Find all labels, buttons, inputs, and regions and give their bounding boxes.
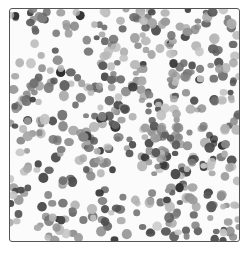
- cell-nucleus: [152, 148, 161, 157]
- cell-nucleus: [97, 169, 105, 177]
- cell-nucleus: [226, 18, 236, 29]
- cell-nucleus: [111, 236, 119, 241]
- cell-nucleus: [206, 201, 216, 212]
- cell-nucleus: [210, 75, 219, 83]
- cell-nucleus: [78, 80, 85, 88]
- cell-nucleus: [87, 204, 97, 214]
- cell-nucleus: [220, 204, 226, 210]
- cell-nucleus: [142, 134, 149, 140]
- cell-nucleus: [79, 216, 87, 224]
- cell-nucleus: [184, 166, 190, 172]
- cell-nucleus: [117, 75, 126, 83]
- cell-nucleus: [58, 199, 68, 208]
- cell-nucleus: [62, 20, 70, 27]
- cell-nucleus: [38, 173, 48, 183]
- micrograph-frame: [9, 8, 240, 242]
- cell-nucleus: [204, 192, 212, 199]
- cell-nucleus: [175, 183, 183, 192]
- cell-nucleus: [185, 9, 191, 13]
- cell-nucleus: [15, 58, 24, 67]
- cell-nucleus: [130, 60, 140, 69]
- cell-nucleus: [160, 9, 169, 17]
- cell-nucleus: [83, 113, 89, 118]
- cell-nucleus: [26, 58, 36, 68]
- cell-nucleus: [90, 215, 96, 221]
- cell-nucleus: [183, 141, 193, 150]
- cell-nucleus: [33, 167, 40, 173]
- cell-nucleus: [95, 189, 103, 196]
- cell-nucleus: [59, 90, 69, 101]
- cell-nucleus: [38, 52, 45, 59]
- cell-nucleus: [175, 229, 182, 235]
- cell-nucleus: [160, 18, 170, 26]
- cell-nucleus: [17, 187, 25, 194]
- cell-nucleus: [52, 47, 59, 53]
- cell-nucleus: [44, 235, 51, 241]
- cell-nucleus: [188, 183, 198, 191]
- cell-nucleus: [48, 200, 56, 207]
- cell-nucleus: [227, 90, 233, 95]
- cell-nucleus: [133, 209, 140, 216]
- cell-nucleus: [57, 65, 64, 72]
- cell-nucleus: [59, 80, 69, 91]
- cell-nucleus: [117, 117, 125, 124]
- cell-nucleus: [70, 21, 79, 31]
- cell-nucleus: [35, 99, 42, 105]
- cell-nucleus: [26, 19, 35, 27]
- cell-nucleus: [126, 150, 134, 158]
- cell-nucleus: [45, 167, 54, 175]
- cell-nucleus: [16, 149, 25, 157]
- cell-nucleus: [34, 225, 42, 231]
- cell-nucleus: [24, 117, 31, 125]
- cell-nucleus: [138, 77, 147, 86]
- cell-nucleus: [86, 172, 95, 181]
- cell-nucleus: [177, 200, 183, 205]
- cell-nucleus: [149, 117, 156, 124]
- cell-nucleus: [117, 217, 126, 224]
- cell-nucleus: [35, 160, 42, 168]
- cell-nucleus: [47, 67, 54, 74]
- cell-nucleus: [182, 89, 190, 97]
- cell-nucleus: [120, 104, 130, 114]
- cell-nucleus: [100, 52, 110, 61]
- cell-nucleus: [83, 36, 92, 45]
- cell-nucleus: [122, 229, 132, 239]
- cell-nucleus: [109, 166, 116, 173]
- cell-nucleus: [97, 105, 103, 111]
- cell-nucleus: [79, 154, 87, 162]
- cell-nucleus: [32, 27, 39, 34]
- cell-nucleus: [207, 215, 213, 221]
- micrograph-image: [10, 9, 239, 241]
- cell-nucleus: [155, 102, 162, 107]
- cell-nucleus: [64, 138, 74, 146]
- cell-nucleus: [154, 164, 160, 169]
- cell-nucleus: [172, 140, 181, 149]
- cell-nucleus: [169, 59, 177, 68]
- cell-nucleus: [37, 202, 46, 211]
- cell-nucleus: [56, 9, 65, 16]
- cell-nucleus: [111, 122, 119, 129]
- cell-nucleus: [168, 69, 177, 78]
- cell-nucleus: [233, 177, 239, 186]
- cell-nucleus: [24, 185, 31, 192]
- cell-nucleus: [72, 102, 79, 109]
- cell-nucleus: [59, 176, 68, 185]
- cell-nucleus: [147, 228, 154, 234]
- cell-nucleus: [119, 55, 128, 62]
- cell-nucleus: [109, 35, 119, 44]
- cell-nucleus: [98, 112, 107, 121]
- cell-nucleus: [10, 175, 14, 183]
- cell-nucleus: [165, 188, 171, 193]
- cell-nucleus: [199, 122, 207, 131]
- cell-nucleus: [101, 37, 109, 45]
- cell-nucleus: [148, 50, 156, 59]
- cell-nucleus: [188, 62, 195, 70]
- cell-nucleus: [229, 58, 238, 67]
- cell-nucleus: [57, 146, 66, 153]
- cell-nucleus: [52, 30, 60, 38]
- cell-nucleus: [180, 72, 190, 82]
- cell-nucleus: [116, 17, 125, 25]
- cell-nucleus: [141, 24, 149, 32]
- cell-nucleus: [129, 113, 137, 121]
- cell-nucleus: [103, 144, 112, 151]
